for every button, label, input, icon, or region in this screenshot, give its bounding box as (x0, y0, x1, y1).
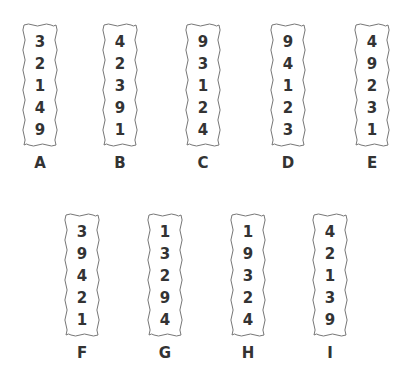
strip-label: H (228, 344, 268, 362)
digit: 3 (230, 265, 266, 287)
digit: 3 (147, 243, 183, 265)
digit: 1 (312, 265, 348, 287)
strip-b: 42391B (100, 22, 140, 172)
digit: 3 (354, 97, 390, 119)
strip-label: F (62, 344, 102, 362)
digit: 2 (354, 75, 390, 97)
digit-column: 39421 (64, 221, 100, 331)
digit: 4 (230, 309, 266, 331)
strip-label: C (183, 154, 223, 172)
digit: 4 (64, 265, 100, 287)
paper-strip: 94123 (270, 22, 306, 148)
digit: 2 (147, 265, 183, 287)
digit: 2 (230, 287, 266, 309)
digit: 9 (147, 287, 183, 309)
digit: 4 (312, 221, 348, 243)
paper-strip: 42139 (312, 212, 348, 338)
digit: 2 (270, 97, 306, 119)
digit: 1 (22, 75, 58, 97)
paper-strip: 19324 (230, 212, 266, 338)
strip-i: 42139I (310, 212, 350, 362)
digit: 9 (354, 53, 390, 75)
digit: 9 (185, 31, 221, 53)
digit: 3 (185, 53, 221, 75)
strip-label: E (352, 154, 392, 172)
digit: 2 (102, 53, 138, 75)
digit-column: 93124 (185, 31, 221, 141)
paper-strip: 49231 (354, 22, 390, 148)
digit: 3 (102, 75, 138, 97)
digit-column: 42139 (312, 221, 348, 331)
digit: 9 (270, 31, 306, 53)
digit: 2 (185, 97, 221, 119)
digit: 9 (22, 119, 58, 141)
digit: 4 (270, 53, 306, 75)
strip-label: I (310, 344, 350, 362)
digit: 3 (312, 287, 348, 309)
digit-column: 13294 (147, 221, 183, 331)
digit: 1 (102, 119, 138, 141)
paper-strip: 32149 (22, 22, 58, 148)
paper-strip: 39421 (64, 212, 100, 338)
strip-label: D (268, 154, 308, 172)
digit: 9 (64, 243, 100, 265)
digit: 3 (22, 31, 58, 53)
digit: 9 (312, 309, 348, 331)
paper-strip: 42391 (102, 22, 138, 148)
digit: 1 (230, 221, 266, 243)
strip-label: B (100, 154, 140, 172)
digit: 4 (147, 309, 183, 331)
digit: 2 (312, 243, 348, 265)
digit: 3 (270, 119, 306, 141)
strip-c: 93124C (183, 22, 223, 172)
digit: 4 (102, 31, 138, 53)
digit-column: 42391 (102, 31, 138, 141)
strip-d: 94123D (268, 22, 308, 172)
digit: 4 (22, 97, 58, 119)
digit: 9 (102, 97, 138, 119)
strip-a: 32149A (20, 22, 60, 172)
digit: 1 (185, 75, 221, 97)
digit: 4 (185, 119, 221, 141)
strip-label: A (20, 154, 60, 172)
digit: 2 (64, 287, 100, 309)
digit: 1 (354, 119, 390, 141)
digit-column: 19324 (230, 221, 266, 331)
paper-strip: 93124 (185, 22, 221, 148)
digit: 1 (147, 221, 183, 243)
digit: 3 (64, 221, 100, 243)
digit-column: 49231 (354, 31, 390, 141)
paper-strip: 13294 (147, 212, 183, 338)
strip-e: 49231E (352, 22, 392, 172)
digit: 1 (270, 75, 306, 97)
strip-g: 13294G (145, 212, 185, 362)
digit: 4 (354, 31, 390, 53)
strip-h: 19324H (228, 212, 268, 362)
strip-label: G (145, 344, 185, 362)
digit-column: 32149 (22, 31, 58, 141)
digit-column: 94123 (270, 31, 306, 141)
digit: 9 (230, 243, 266, 265)
digit: 2 (22, 53, 58, 75)
strip-f: 39421F (62, 212, 102, 362)
digit: 1 (64, 309, 100, 331)
